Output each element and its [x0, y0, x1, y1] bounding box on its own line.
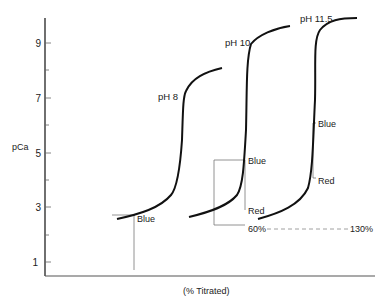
label-ph10: pH 10: [225, 37, 250, 48]
y-ticks: [45, 43, 51, 262]
label-red-ph10: Red: [248, 206, 265, 216]
ph8-indicator-lines: [112, 215, 135, 270]
tick-label-7: 7: [35, 93, 41, 104]
x-axis-label: (% Titrated): [183, 286, 230, 296]
tick-label-9: 9: [35, 38, 41, 49]
label-blue-ph8: Blue: [137, 214, 155, 224]
label-range-start: 60%: [248, 224, 266, 234]
y-tick-labels: 9 7 5 3 1: [32, 38, 41, 268]
titration-chart: 9 7 5 3 1 pCa (% Titrated) pH 8 pH 10 pH…: [0, 0, 388, 305]
curve-ph10: [189, 26, 290, 217]
ph10-indicator-box: [214, 160, 245, 225]
label-ph8: pH 8: [158, 91, 178, 102]
curve-ph115: [258, 18, 357, 219]
label-ph115: pH 11.5: [300, 13, 333, 24]
y-axis-label: pCa: [12, 142, 29, 152]
tick-label-1: 1: [32, 257, 38, 268]
label-red-ph115: Red: [318, 176, 335, 186]
label-range-end: 130%: [350, 224, 373, 234]
tick-label-5: 5: [35, 148, 41, 159]
tick-label-3: 3: [35, 202, 41, 213]
label-blue-ph10: Blue: [248, 156, 266, 166]
label-blue-ph115: Blue: [318, 119, 336, 129]
